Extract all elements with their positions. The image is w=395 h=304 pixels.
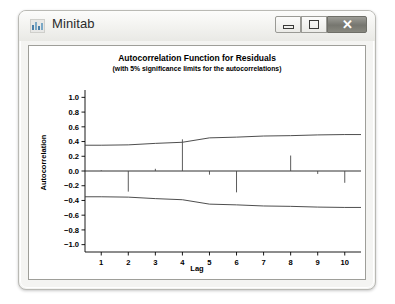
minimize-button[interactable] <box>275 16 301 33</box>
y-tick-label: −0.4 <box>64 196 80 205</box>
bar-chart-icon <box>30 19 45 33</box>
maximize-icon <box>309 20 319 29</box>
close-button[interactable]: ✕ <box>327 16 367 33</box>
y-tick-label: −0.8 <box>64 226 79 235</box>
x-tick-label: 7 <box>261 258 265 267</box>
y-tick-label: −0.2 <box>64 181 79 190</box>
window-title: Minitab <box>52 16 95 31</box>
graph-frame: Autocorrelation Function for Residuals (… <box>28 45 366 280</box>
minimize-icon <box>283 25 294 29</box>
close-icon: ✕ <box>342 18 353 31</box>
x-tick-label: 1 <box>99 258 104 267</box>
x-tick-label: 2 <box>126 258 130 267</box>
minitab-window: Minitab ✕ Autocorrelation Function for R… <box>18 10 376 290</box>
maximize-button[interactable] <box>301 16 327 33</box>
y-tick-label: 0.2 <box>68 152 79 161</box>
x-tick-label: 10 <box>341 258 349 267</box>
y-tick-label: 0.8 <box>68 108 79 117</box>
x-tick-label: 6 <box>234 258 238 267</box>
y-tick-label: −0.6 <box>64 211 79 220</box>
y-tick-label: 1.0 <box>68 93 79 102</box>
x-tick-label: 9 <box>316 258 320 267</box>
upper-significance-limit <box>85 135 361 146</box>
y-tick-label: −1.0 <box>64 240 79 249</box>
plot-svg: 1.00.80.60.40.20.0−0.2−0.4−0.6−0.8−1.012… <box>29 46 369 290</box>
x-tick-label: 3 <box>153 258 157 267</box>
y-tick-label: 0.6 <box>68 123 79 132</box>
x-tick-label: 8 <box>289 258 293 267</box>
y-tick-label: 0.0 <box>68 167 79 176</box>
title-bar[interactable]: Minitab ✕ <box>19 11 375 41</box>
x-tick-label: 5 <box>207 258 212 267</box>
y-tick-label: 0.4 <box>68 137 79 146</box>
autocorrelation-chart: Autocorrelation Function for Residuals (… <box>29 46 365 279</box>
x-tick-label: 4 <box>180 258 185 267</box>
lower-significance-limit <box>85 197 361 208</box>
